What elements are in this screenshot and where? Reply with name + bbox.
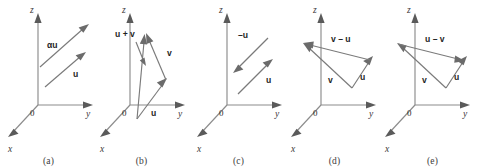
u-arrowhead bbox=[363, 56, 373, 65]
panel-c-caption: (c) bbox=[190, 156, 287, 166]
u-label: u bbox=[73, 69, 78, 79]
v-label: v bbox=[422, 75, 427, 85]
origin-label: 0 bbox=[407, 108, 412, 118]
panel-d-caption: (d) bbox=[286, 156, 383, 166]
origin-label: 0 bbox=[122, 108, 127, 118]
origin-label: 0 bbox=[313, 108, 318, 118]
v-label: v bbox=[328, 75, 333, 85]
y-axis-arrowhead bbox=[460, 101, 470, 108]
u-plus-v-arrowhead bbox=[140, 34, 147, 45]
v-label: v bbox=[167, 48, 172, 58]
z-axis-label: z bbox=[406, 5, 411, 15]
x-axis-arrowhead bbox=[291, 129, 302, 137]
z-axis-arrowhead bbox=[223, 13, 230, 23]
u-plus-v-label: u + v bbox=[115, 29, 135, 39]
panel-b-caption: (b) bbox=[93, 156, 190, 166]
v-minus-u-label: v – u bbox=[331, 34, 351, 44]
z-axis-label: z bbox=[121, 5, 126, 15]
z-axis-label: z bbox=[29, 5, 34, 15]
u-vector-line bbox=[137, 84, 163, 119]
y-axis-arrowhead bbox=[272, 101, 282, 108]
minus-u-arrowhead bbox=[233, 65, 243, 73]
origin-label: 0 bbox=[219, 108, 224, 118]
x-axis-arrowhead bbox=[385, 129, 396, 137]
y-axis-arrowhead bbox=[175, 101, 185, 108]
y-axis-label: y bbox=[462, 109, 468, 119]
panel-d: z y x 0 v – u v u (d) bbox=[286, 0, 383, 168]
z-axis-arrowhead bbox=[411, 13, 418, 23]
v-vector-line bbox=[149, 40, 166, 80]
origin-label: 0 bbox=[30, 108, 35, 118]
x-axis-label: x bbox=[196, 144, 202, 154]
y-axis-arrowhead bbox=[83, 101, 93, 108]
minus-u-vector-line bbox=[238, 38, 268, 68]
panel-c: z y x 0 –u u (c) bbox=[190, 0, 287, 168]
x-axis-arrowhead bbox=[100, 129, 111, 137]
z-axis-label: z bbox=[312, 5, 317, 15]
u-minus-v-label: u – v bbox=[425, 34, 445, 44]
y-axis-label: y bbox=[368, 109, 374, 119]
panel-e: z y x 0 u – v v u (e) bbox=[384, 0, 481, 168]
u-label: u bbox=[266, 75, 271, 85]
z-axis-arrowhead bbox=[126, 13, 133, 23]
u-plus-v-pointer-arrowhead bbox=[140, 58, 146, 67]
v-arrowhead bbox=[146, 33, 153, 44]
u-label: u bbox=[454, 72, 459, 82]
y-axis-arrowhead bbox=[366, 101, 376, 108]
minus-u-label: –u bbox=[238, 30, 248, 40]
z-axis-label: z bbox=[218, 5, 223, 15]
u-label: u bbox=[360, 72, 365, 82]
y-axis-label: y bbox=[85, 109, 91, 119]
x-axis-arrowhead bbox=[8, 129, 19, 137]
x-axis-label: x bbox=[7, 144, 13, 154]
panel-a-caption: (a) bbox=[0, 156, 97, 166]
x-axis-label: x bbox=[290, 144, 296, 154]
u-vector-line bbox=[238, 64, 268, 94]
u-label: u bbox=[151, 108, 156, 118]
y-axis-label: y bbox=[177, 109, 183, 119]
vector-operations-figure: z y x 0 αu u (a) bbox=[0, 0, 486, 168]
x-axis-label: x bbox=[99, 144, 105, 154]
alpha-u-label: αu bbox=[47, 40, 58, 50]
panel-a: z y x 0 αu u (a) bbox=[0, 0, 97, 168]
z-axis-arrowhead bbox=[317, 13, 324, 23]
x-axis-label: x bbox=[384, 144, 390, 154]
u-arrowhead bbox=[263, 59, 273, 67]
z-axis-arrowhead bbox=[34, 13, 41, 23]
x-axis-arrowhead bbox=[197, 129, 208, 137]
y-axis-label: y bbox=[274, 109, 280, 119]
panel-b: z y x 0 u + v v u (b) bbox=[93, 0, 190, 168]
panel-e-caption: (e) bbox=[384, 156, 481, 166]
